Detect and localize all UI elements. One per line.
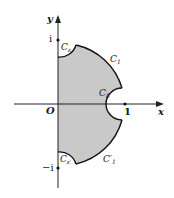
tick-label-minus-i: −i	[42, 163, 54, 173]
point-minus-i	[56, 166, 59, 169]
label-c-one-top-main: C	[110, 54, 117, 64]
label-c-delta: Cδ	[99, 89, 110, 99]
label-c-one-top: C1	[110, 55, 121, 65]
label-c-eps-bottom-main: C	[60, 154, 67, 164]
label-c-eps-top-sub: ε	[68, 46, 71, 53]
tick-label-i: i	[49, 34, 52, 44]
tick-label-one: 1	[124, 107, 131, 117]
contour-diagram: y x O 1 i −i Cε C1 Cδ Cε′ C′1	[0, 0, 174, 198]
origin-label: O	[46, 106, 55, 116]
label-c-one-bottom: C′1	[103, 155, 116, 165]
label-c-eps-bottom: Cε′	[60, 155, 71, 165]
diagram-svg	[0, 0, 174, 198]
label-c-one-bottom-main: C′	[103, 154, 112, 164]
point-i	[56, 38, 59, 41]
x-axis-label: x	[158, 107, 164, 117]
label-c-one-top-sub: 1	[117, 58, 121, 65]
label-c-eps-bottom-sub: ε′	[67, 158, 72, 165]
label-c-one-bottom-sub: 1	[112, 158, 116, 165]
label-c-delta-sub: δ	[106, 92, 110, 99]
label-c-eps-top: Cε	[61, 43, 71, 53]
label-c-delta-main: C	[99, 88, 106, 98]
y-axis-arrow-icon	[55, 15, 61, 23]
y-axis-label: y	[47, 14, 53, 24]
label-c-eps-top-main: C	[61, 42, 68, 52]
